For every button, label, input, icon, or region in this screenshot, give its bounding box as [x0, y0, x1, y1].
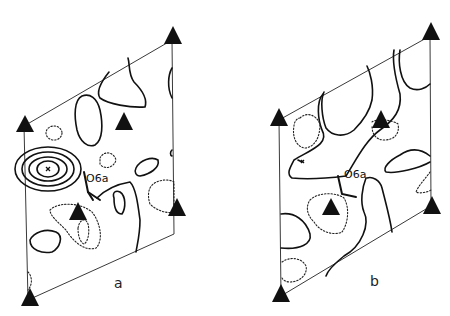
panel-b: O6a b [270, 22, 441, 302]
negative-contours [28, 126, 174, 290]
triangle-icon [168, 198, 186, 216]
difference-map-figure: O6a a [0, 0, 450, 316]
unit-cell-frame [279, 36, 431, 296]
triangle-icon [21, 288, 39, 306]
atom-label-o6a: O6a [86, 172, 108, 185]
panel-label-a: a [114, 275, 123, 291]
panel-a: O6a a [15, 26, 186, 306]
triangle-icon [372, 110, 390, 128]
triangle-icon [16, 115, 34, 132]
triangle-icon [272, 284, 290, 302]
negative-contours [282, 115, 431, 282]
triangle-icon [423, 196, 441, 214]
triangle-icon [115, 112, 133, 130]
threefold-axis-markers [270, 22, 441, 302]
triangle-icon [164, 26, 182, 44]
threefold-axis-markers [16, 26, 186, 306]
triangle-icon [422, 22, 440, 40]
atom-label-o6a: O6a [344, 168, 366, 181]
triangle-icon [322, 198, 340, 215]
positive-contours [15, 58, 172, 253]
atom-cross-marker [46, 167, 50, 171]
panel-label-b: b [370, 273, 379, 289]
